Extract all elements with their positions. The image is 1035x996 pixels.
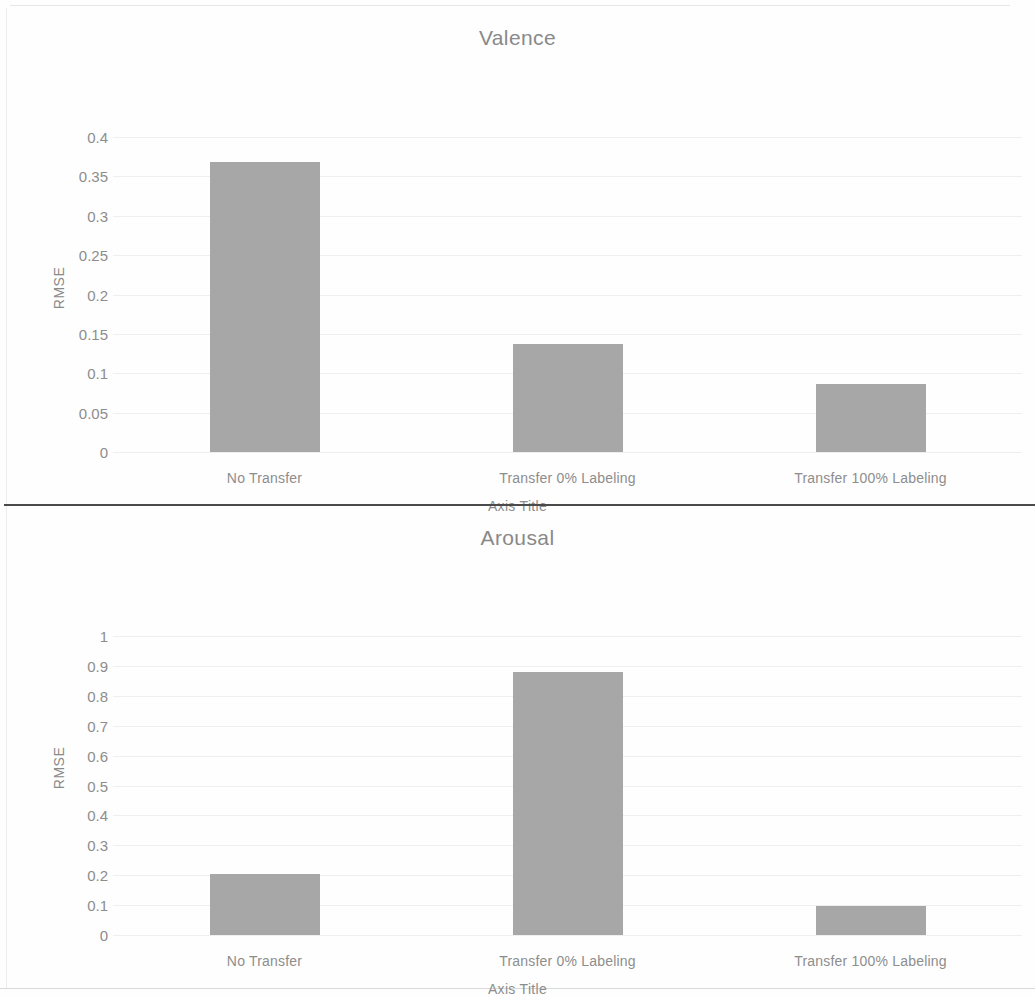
arousal-y-tick: 0.3: [48, 838, 108, 853]
arousal-x-tick: Transfer 0% Labeling: [416, 953, 719, 969]
valence-y-tick: 0.35: [48, 169, 108, 184]
valence-y-tick: 0.15: [48, 326, 108, 341]
arousal-bar: [210, 874, 320, 935]
valence-chart: Valence RMSE 0.40.350.30.250.20.150.10.0…: [0, 0, 1035, 504]
valence-y-tick: 0.05: [48, 405, 108, 420]
arousal-y-tick: 0.7: [48, 718, 108, 733]
valence-y-tick: 0.4: [48, 130, 108, 145]
figure-page: Valence RMSE 0.40.350.30.250.20.150.10.0…: [0, 0, 1035, 996]
valence-x-tick: Transfer 100% Labeling: [719, 470, 1022, 486]
arousal-x-tick: No Transfer: [113, 953, 416, 969]
valence-chart-title: Valence: [0, 0, 1035, 50]
arousal-y-tick: 0.8: [48, 688, 108, 703]
valence-gridline: [113, 452, 1022, 453]
arousal-y-tick: 0.1: [48, 898, 108, 913]
arousal-y-tick: 0.6: [48, 748, 108, 763]
arousal-y-tick: 0: [48, 928, 108, 943]
arousal-chart-title: Arousal: [0, 506, 1035, 550]
arousal-y-tick: 0.5: [48, 778, 108, 793]
valence-y-tick: 0.1: [48, 366, 108, 381]
valence-x-tick: Transfer 0% Labeling: [416, 470, 719, 486]
arousal-x-axis-title: Axis Title: [0, 981, 1035, 996]
valence-gridline: [113, 137, 1022, 138]
arousal-x-tick: Transfer 100% Labeling: [719, 953, 1022, 969]
valence-y-tick: 0.25: [48, 248, 108, 263]
valence-y-tick: 0.2: [48, 287, 108, 302]
valence-x-tick: No Transfer: [113, 470, 416, 486]
arousal-bar: [513, 672, 623, 935]
arousal-y-tick: 0.9: [48, 658, 108, 673]
arousal-gridline: [113, 636, 1022, 637]
valence-y-tick: 0: [48, 445, 108, 460]
arousal-bar: [816, 906, 926, 935]
arousal-y-tick: 0.4: [48, 808, 108, 823]
arousal-y-tick: 0.2: [48, 868, 108, 883]
valence-bar: [210, 162, 320, 452]
arousal-y-tick: 1: [48, 629, 108, 644]
arousal-gridline: [113, 935, 1022, 936]
arousal-chart: Arousal RMSE 10.90.80.70.60.50.40.30.20.…: [0, 506, 1035, 996]
valence-y-tick: 0.3: [48, 208, 108, 223]
arousal-gridline: [113, 666, 1022, 667]
valence-bar: [513, 344, 623, 452]
valence-bar: [816, 384, 926, 452]
